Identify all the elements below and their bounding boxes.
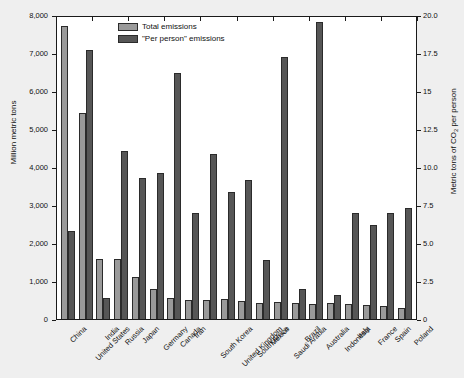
bar-group xyxy=(379,17,397,319)
legend-item-per-person: "Per person" emissions xyxy=(118,34,225,43)
bar-per-person-emissions xyxy=(405,208,412,319)
x-axis-label: Poland xyxy=(413,325,435,347)
right-axis-title: Metric tons of CO2 per person xyxy=(449,81,460,201)
right-tick-mark xyxy=(417,282,421,283)
bar-per-person-emissions xyxy=(316,22,323,319)
bar-total-emissions xyxy=(363,305,370,319)
bar-groups xyxy=(57,17,416,319)
bar-per-person-emissions xyxy=(281,57,288,319)
left-tick-mark xyxy=(52,244,56,245)
legend-label-total: Total emissions xyxy=(142,22,197,31)
bar-total-emissions xyxy=(380,306,387,319)
bar-group xyxy=(254,17,272,319)
bar-group xyxy=(237,17,255,319)
bar-per-person-emissions xyxy=(263,260,270,319)
left-tick-label: 7,000 xyxy=(4,50,48,58)
right-tick-mark xyxy=(417,206,421,207)
legend-swatch-per-person-icon xyxy=(118,35,138,43)
right-tick-mark xyxy=(417,168,421,169)
bar-group xyxy=(290,17,308,319)
right-tick-label: 7.5 xyxy=(423,202,463,210)
left-tick-label: 2,000 xyxy=(4,240,48,248)
right-tick-label: 12.5 xyxy=(423,126,463,134)
bar-group xyxy=(183,17,201,319)
bar-total-emissions xyxy=(61,26,68,319)
bar-group xyxy=(112,17,130,319)
left-tick-label: 0 xyxy=(4,316,48,324)
top-tick-mark xyxy=(417,17,418,21)
top-tick-mark xyxy=(200,17,201,21)
right-tick-mark xyxy=(417,130,421,131)
bar-total-emissions xyxy=(185,300,192,319)
left-tick-mark xyxy=(52,54,56,55)
top-tick-mark xyxy=(309,17,310,21)
top-tick-mark xyxy=(164,17,165,21)
bar-total-emissions xyxy=(203,300,210,319)
right-tick-mark xyxy=(417,320,421,321)
right-tick-label: 17.5 xyxy=(423,50,463,58)
bar-group xyxy=(325,17,343,319)
left-tick-mark xyxy=(52,130,56,131)
bar-total-emissions xyxy=(150,289,157,319)
plot-area xyxy=(56,16,417,320)
top-tick-mark xyxy=(128,17,129,21)
left-tick-mark xyxy=(52,282,56,283)
left-tick-label: 1,000 xyxy=(4,278,48,286)
bar-per-person-emissions xyxy=(299,289,306,319)
right-tick-label: 2.5 xyxy=(423,278,463,286)
bar-group xyxy=(396,17,414,319)
chart-legend: Total emissions "Per person" emissions xyxy=(118,22,225,46)
left-tick-mark xyxy=(52,92,56,93)
right-tick-label: 10.0 xyxy=(423,164,463,172)
bar-per-person-emissions xyxy=(352,213,359,319)
x-axis-label: Japan xyxy=(141,325,161,345)
bar-total-emissions xyxy=(114,259,121,319)
bar-total-emissions xyxy=(132,277,139,319)
right-tick-label: 20.0 xyxy=(423,12,463,20)
bar-total-emissions xyxy=(256,303,263,319)
top-tick-mark xyxy=(381,17,382,21)
right-tick-mark xyxy=(417,244,421,245)
bar-total-emissions xyxy=(309,304,316,319)
bar-group xyxy=(343,17,361,319)
right-tick-label: 15 xyxy=(423,88,463,96)
bar-per-person-emissions xyxy=(210,154,217,319)
bar-per-person-emissions xyxy=(192,213,199,319)
legend-label-per-person: "Per person" emissions xyxy=(142,34,225,43)
top-tick-mark xyxy=(56,17,57,21)
bar-group xyxy=(361,17,379,319)
bar-per-person-emissions xyxy=(157,173,164,319)
left-tick-label: 3,000 xyxy=(4,202,48,210)
bar-per-person-emissions xyxy=(103,298,110,319)
bar-total-emissions xyxy=(167,298,174,319)
left-tick-mark xyxy=(52,320,56,321)
bar-total-emissions xyxy=(79,113,86,319)
bar-group xyxy=(148,17,166,319)
right-tick-mark xyxy=(417,92,421,93)
bar-group xyxy=(59,17,77,319)
bar-total-emissions xyxy=(345,304,352,319)
bar-group xyxy=(201,17,219,319)
bar-total-emissions xyxy=(96,259,103,319)
bar-per-person-emissions xyxy=(387,213,394,319)
bar-group xyxy=(272,17,290,319)
bar-group xyxy=(166,17,184,319)
chart-figure: Million metric tons Metric tons of CO2 p… xyxy=(0,0,464,378)
top-tick-mark xyxy=(92,17,93,21)
bar-group xyxy=(308,17,326,319)
left-tick-mark xyxy=(52,206,56,207)
bar-group xyxy=(130,17,148,319)
top-tick-mark xyxy=(237,17,238,21)
left-tick-label: 4,000 xyxy=(4,164,48,172)
bar-per-person-emissions xyxy=(68,231,75,319)
x-axis-label: Italy xyxy=(356,325,371,340)
bar-per-person-emissions xyxy=(334,295,341,319)
top-tick-mark xyxy=(273,17,274,21)
bar-total-emissions xyxy=(238,301,245,319)
legend-item-total: Total emissions xyxy=(118,22,225,31)
bar-per-person-emissions xyxy=(245,180,252,319)
right-tick-label: 5.0 xyxy=(423,240,463,248)
left-tick-label: 6,000 xyxy=(4,88,48,96)
top-tick-mark xyxy=(345,17,346,21)
bar-per-person-emissions xyxy=(121,151,128,319)
